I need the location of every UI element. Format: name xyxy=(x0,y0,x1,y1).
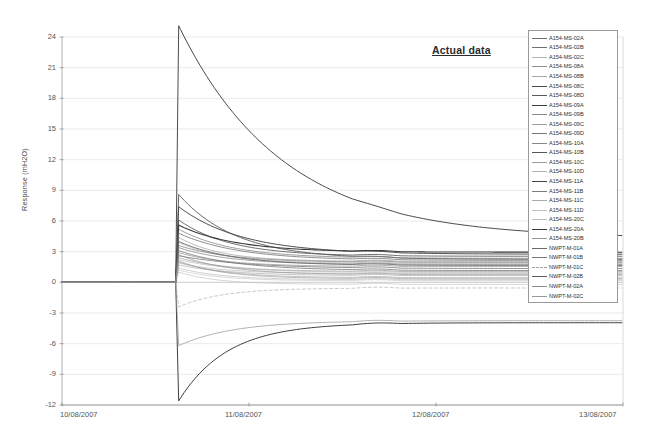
legend-line-swatch xyxy=(531,262,548,271)
legend-item[interactable]: A154-MS-11A xyxy=(531,176,616,186)
legend-item[interactable]: A154-MS-09D xyxy=(531,128,616,138)
legend-item-label: A154-MS-08C xyxy=(548,83,584,89)
legend-item-label: A154-MS-11D xyxy=(548,207,583,213)
y-tick-label: 21 xyxy=(30,63,56,72)
legend-line-swatch xyxy=(531,234,548,243)
chart-annotation: Actual data xyxy=(432,44,491,56)
legend-line-swatch xyxy=(531,62,548,71)
legend-line-swatch xyxy=(531,129,548,138)
legend-item[interactable]: A154-MS-10D xyxy=(531,167,616,177)
legend-line-swatch xyxy=(531,52,548,61)
legend-item-label: A154-MS-08D xyxy=(548,92,584,98)
legend-item[interactable]: NWPT-M-02C xyxy=(531,291,616,301)
y-axis-label: Response (mH2O) xyxy=(20,110,29,250)
legend-item[interactable]: A154-MS-02B xyxy=(531,43,616,53)
legend-item[interactable]: A154-MS-11D xyxy=(531,205,616,215)
legend-item[interactable]: A154-MS-02A xyxy=(531,33,616,43)
legend-item[interactable]: A154-MS-08C xyxy=(531,81,616,91)
legend-item-label: A154-MS-10D xyxy=(548,168,584,174)
legend-item-label: A154-MS-10C xyxy=(548,159,584,165)
legend-item-label: A154-MS-20C xyxy=(548,216,584,222)
legend-item[interactable]: NWPT-M-01A xyxy=(531,243,616,253)
y-tick-label: 9 xyxy=(30,185,56,194)
legend-item-label: A154-MS-09B xyxy=(548,111,584,117)
legend-item-label: A154-MS-02B xyxy=(548,44,584,50)
legend-line-swatch xyxy=(531,205,548,214)
y-tick-label: -3 xyxy=(30,308,56,317)
legend-item[interactable]: NWPT-M-02A xyxy=(531,281,616,291)
legend-line-swatch xyxy=(531,291,548,300)
legend-item[interactable]: A154-MS-11C xyxy=(531,195,616,205)
legend-line-swatch xyxy=(531,119,548,128)
legend-line-swatch xyxy=(531,272,548,281)
legend-item-label: NWPT-M-01B xyxy=(548,254,583,260)
x-tick-label: 12/08/2007 xyxy=(412,410,450,419)
y-tick-label: 24 xyxy=(30,32,56,41)
legend-line-swatch xyxy=(531,81,548,90)
y-tick-label: -6 xyxy=(30,339,56,348)
legend-line-swatch xyxy=(531,281,548,290)
legend-line-swatch xyxy=(531,253,548,262)
y-tick-label: 6 xyxy=(30,216,56,225)
legend-line-swatch xyxy=(531,148,548,157)
legend-line-swatch xyxy=(531,215,548,224)
legend-line-swatch xyxy=(531,196,548,205)
legend-item-label: NWPT-M-02A xyxy=(548,283,583,289)
legend-item-label: A154-MS-10B xyxy=(548,149,584,155)
legend-item-label: A154-MS-09C xyxy=(548,121,584,127)
legend-item[interactable]: NWPT-M-01B xyxy=(531,253,616,263)
legend-line-swatch xyxy=(531,33,548,42)
legend-line-swatch xyxy=(531,243,548,252)
legend-item[interactable]: A154-MS-02C xyxy=(531,52,616,62)
legend-item[interactable]: A154-MS-10B xyxy=(531,148,616,158)
legend-line-swatch xyxy=(531,91,548,100)
legend-line-swatch xyxy=(531,71,548,80)
legend-item-label: A154-MS-02A xyxy=(548,35,584,41)
legend-item-label: A154-MS-20B xyxy=(548,235,584,241)
legend-item[interactable]: A154-MS-20B xyxy=(531,233,616,243)
legend-line-swatch xyxy=(531,176,548,185)
legend-line-swatch xyxy=(531,157,548,166)
legend-item-label: A154-MS-20A xyxy=(548,226,584,232)
legend-line-swatch xyxy=(531,100,548,109)
chart-container: Response (mH2O) 24211815129630-3-6-9-12 … xyxy=(0,0,647,437)
y-tick-label: 18 xyxy=(30,93,56,102)
legend-item-label: NWPT-M-02C xyxy=(548,293,583,299)
legend-item-label: A154-MS-08B xyxy=(548,73,584,79)
legend-item[interactable]: A154-MS-09A xyxy=(531,100,616,110)
x-tick-label: 13/08/2007 xyxy=(579,410,617,419)
legend-item-label: A154-MS-10A xyxy=(548,140,584,146)
legend-item[interactable]: A154-MS-20C xyxy=(531,214,616,224)
legend-item-label: NWPT-M-02B xyxy=(548,273,583,279)
legend-line-swatch xyxy=(531,138,548,147)
legend-item[interactable]: A154-MS-08A xyxy=(531,62,616,72)
legend-item[interactable]: A154-MS-08D xyxy=(531,90,616,100)
legend-item-label: A154-MS-09A xyxy=(548,102,584,108)
legend-item-label: A154-MS-11B xyxy=(548,188,583,194)
y-tick-label: -9 xyxy=(30,369,56,378)
chart-legend[interactable]: A154-MS-02AA154-MS-02BA154-MS-02CA154-MS… xyxy=(528,30,618,303)
legend-item[interactable]: A154-MS-20A xyxy=(531,224,616,234)
legend-item-label: A154-MS-08A xyxy=(548,63,584,69)
y-tick-label: 15 xyxy=(30,124,56,133)
y-tick-label: 0 xyxy=(30,277,56,286)
legend-item-label: NWPT-M-01C xyxy=(548,264,583,270)
legend-item-label: A154-MS-11A xyxy=(548,178,583,184)
legend-item[interactable]: NWPT-M-02B xyxy=(531,272,616,282)
legend-item[interactable]: A154-MS-09B xyxy=(531,109,616,119)
legend-item-label: A154-MS-11C xyxy=(548,197,583,203)
legend-item[interactable]: A154-MS-08B xyxy=(531,71,616,81)
legend-item[interactable]: NWPT-M-01C xyxy=(531,262,616,272)
legend-line-swatch xyxy=(531,186,548,195)
legend-line-swatch xyxy=(531,224,548,233)
legend-item[interactable]: A154-MS-10A xyxy=(531,138,616,148)
legend-item-label: A154-MS-02C xyxy=(548,54,584,60)
legend-line-swatch xyxy=(531,167,548,176)
legend-item[interactable]: A154-MS-09C xyxy=(531,119,616,129)
y-tick-label: 3 xyxy=(30,247,56,256)
x-tick-label: 11/08/2007 xyxy=(225,410,262,419)
legend-item-label: NWPT-M-01A xyxy=(548,245,583,251)
legend-line-swatch xyxy=(531,43,548,52)
legend-item[interactable]: A154-MS-10C xyxy=(531,157,616,167)
legend-item[interactable]: A154-MS-11B xyxy=(531,186,616,196)
